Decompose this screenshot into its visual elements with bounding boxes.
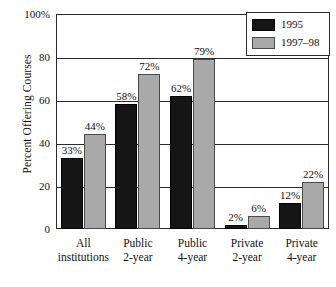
y-tick-label: 100%	[2, 9, 50, 20]
bar-value-label: 72%	[133, 61, 165, 72]
x-category-line-1: Private	[262, 236, 336, 250]
legend-swatch-1997-98	[252, 37, 275, 49]
y-tick-label: 20	[2, 181, 50, 192]
bar-1997-98-0	[84, 134, 106, 229]
chart-legend: 1995 1997–98	[246, 12, 330, 56]
bar-1997-98-4	[302, 182, 324, 229]
legend-label-1995: 1995	[281, 19, 303, 30]
bar-1995-1	[115, 104, 137, 229]
bar-1995-0	[61, 158, 83, 229]
bar-1995-2	[170, 96, 192, 229]
x-axis-category-labels: AllinstitutionsPublic2-yearPublic4-yearP…	[56, 236, 329, 280]
bar-1997-98-2	[193, 59, 215, 229]
y-tick-label: 40	[2, 138, 50, 149]
bar-chart: Percent Offering Courses 020406080100% 3…	[0, 0, 336, 287]
bar-1997-98-1	[138, 74, 160, 229]
x-category-label: Private4-year	[262, 236, 336, 264]
y-tick-label: 0	[2, 224, 50, 235]
legend-swatch-1995	[252, 19, 275, 31]
bar-value-label: 22%	[297, 169, 329, 180]
x-category-line-2: 4-year	[262, 250, 336, 264]
bar-value-label: 44%	[79, 121, 111, 132]
legend-item-1995: 1995	[252, 17, 303, 32]
bar-value-label: 6%	[243, 203, 275, 214]
y-tick-label: 60	[2, 95, 50, 106]
bar-1995-4	[279, 203, 301, 229]
bar-value-label: 79%	[188, 46, 220, 57]
bar-1995-3	[225, 225, 247, 229]
bar-1997-98-3	[248, 216, 270, 229]
legend-label-1997-98: 1997–98	[281, 37, 320, 48]
y-tick-label: 80	[2, 52, 50, 63]
legend-item-1997-98: 1997–98	[252, 35, 320, 50]
